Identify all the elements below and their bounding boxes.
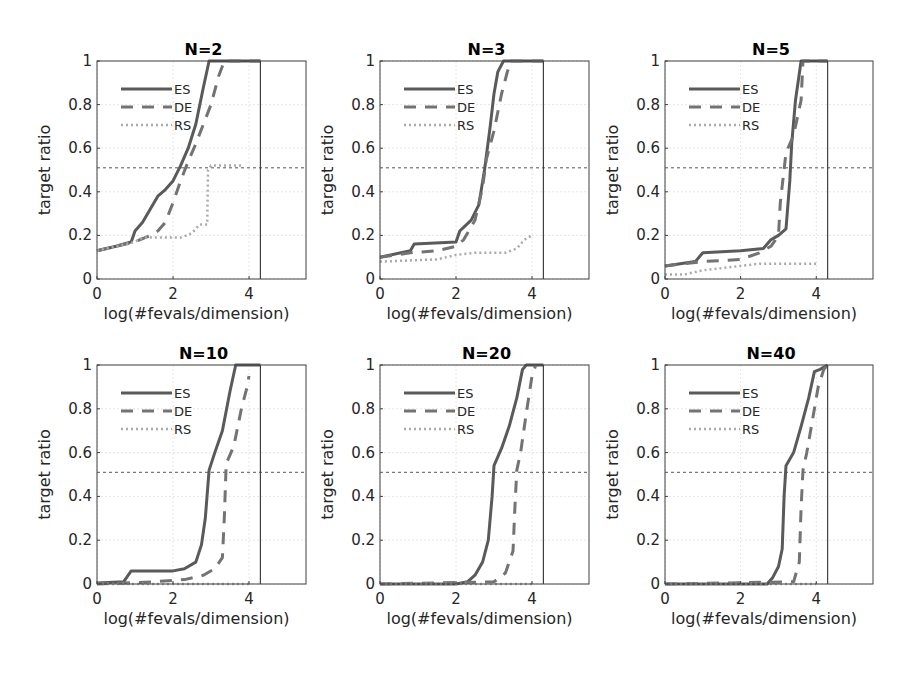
y-axis-label: target ratio [318,429,337,520]
legend-label-es: ES [742,386,758,401]
x-tick-label: 2 [168,285,178,303]
subplot-title: N=40 [746,344,795,363]
y-tick-label: 0.8 [636,96,660,114]
subplot-n-5: 02400.20.40.60.81N=5log(#fevals/dimensio… [603,40,873,323]
y-axis-label: target ratio [35,125,54,216]
x-axis-label: log(#fevals/dimension) [671,609,857,628]
legend-label-es: ES [742,82,758,97]
subplot-n-20: 02400.20.40.60.81N=20log(#fevals/dimensi… [318,344,589,628]
y-tick-label: 0.2 [636,226,660,244]
y-axis-label: target ratio [603,125,622,216]
legend-label-es: ES [457,82,473,97]
subplot-title: N=10 [179,344,228,363]
y-tick-label: 1 [82,52,92,70]
legend-label-rs: RS [742,118,759,133]
legend-label-rs: RS [457,118,474,133]
subplot-title: N=3 [468,40,506,59]
subplot-title: N=2 [185,40,223,59]
legend-label-rs: RS [457,422,474,437]
subplot-n-3: 02400.20.40.60.81N=3log(#fevals/dimensio… [318,40,589,323]
y-tick-label: 0.8 [636,400,660,418]
y-tick-label: 1 [365,356,375,374]
y-tick-label: 0.2 [636,531,660,549]
x-tick-label: 4 [244,285,254,303]
legend-label-de: DE [174,100,192,115]
x-tick-label: 0 [660,590,670,608]
x-tick-label: 4 [244,590,254,608]
y-tick-label: 0.4 [636,183,660,201]
subplot-title: N=5 [752,40,790,59]
y-tick-label: 0.8 [68,400,92,418]
subplot-n-2: 02400.20.40.60.81N=2log(#fevals/dimensio… [35,40,306,323]
subplot-title: N=20 [462,344,511,363]
legend-label-de: DE [457,100,475,115]
legend-label-es: ES [457,386,473,401]
plot-area [97,365,306,584]
y-tick-label: 0.4 [351,487,375,505]
subplot-n-10: 02400.20.40.60.81N=10log(#fevals/dimensi… [35,344,306,628]
plot-area [665,365,873,584]
x-axis-label: log(#fevals/dimension) [103,304,289,323]
y-tick-label: 0.6 [68,444,92,462]
y-tick-label: 0.8 [68,96,92,114]
y-tick-label: 0.6 [351,444,375,462]
x-axis-label: log(#fevals/dimension) [103,609,289,628]
y-tick-label: 0.2 [351,531,375,549]
y-tick-label: 0.6 [636,139,660,157]
y-tick-label: 0 [650,575,660,593]
y-tick-label: 0.4 [68,183,92,201]
y-tick-label: 0.2 [68,531,92,549]
y-tick-label: 0.6 [68,139,92,157]
x-tick-label: 4 [527,590,537,608]
legend-label-de: DE [174,404,192,419]
x-tick-label: 4 [527,285,537,303]
y-tick-label: 0.4 [636,487,660,505]
x-axis-label: log(#fevals/dimension) [386,609,572,628]
y-tick-label: 1 [365,52,375,70]
x-tick-label: 2 [736,285,746,303]
x-axis-label: log(#fevals/dimension) [671,304,857,323]
figure: 02400.20.40.60.81N=2log(#fevals/dimensio… [0,0,911,673]
x-tick-label: 2 [736,590,746,608]
x-tick-label: 2 [451,590,461,608]
x-axis-label: log(#fevals/dimension) [386,304,572,323]
subplot-n-40: 02400.20.40.60.81N=40log(#fevals/dimensi… [603,344,873,628]
legend-label-es: ES [174,82,190,97]
legend-label-es: ES [174,386,190,401]
y-tick-label: 0.2 [68,226,92,244]
legend-label-rs: RS [174,118,191,133]
y-axis-label: target ratio [318,125,337,216]
legend-label-rs: RS [174,422,191,437]
x-tick-label: 0 [375,285,385,303]
y-tick-label: 0 [365,575,375,593]
x-tick-label: 4 [811,590,821,608]
y-tick-label: 0 [650,270,660,288]
y-axis-label: target ratio [603,429,622,520]
y-tick-label: 0.6 [636,444,660,462]
y-tick-label: 0.8 [351,400,375,418]
legend-label-de: DE [457,404,475,419]
y-tick-label: 0.4 [68,487,92,505]
y-tick-label: 1 [82,356,92,374]
y-tick-label: 0.2 [351,226,375,244]
legend-label-de: DE [742,100,760,115]
legend-label-de: DE [742,404,760,419]
y-tick-label: 0.8 [351,96,375,114]
y-tick-label: 1 [650,356,660,374]
x-tick-label: 0 [375,590,385,608]
y-tick-label: 0.6 [351,139,375,157]
x-tick-label: 2 [451,285,461,303]
y-axis-label: target ratio [35,429,54,520]
x-tick-label: 4 [811,285,821,303]
x-tick-label: 0 [660,285,670,303]
x-tick-label: 2 [168,590,178,608]
y-tick-label: 0 [82,575,92,593]
y-tick-label: 0 [82,270,92,288]
y-tick-label: 0.4 [351,183,375,201]
x-tick-label: 0 [92,590,102,608]
legend-label-rs: RS [742,422,759,437]
x-tick-label: 0 [92,285,102,303]
y-tick-label: 0 [365,270,375,288]
y-tick-label: 1 [650,52,660,70]
